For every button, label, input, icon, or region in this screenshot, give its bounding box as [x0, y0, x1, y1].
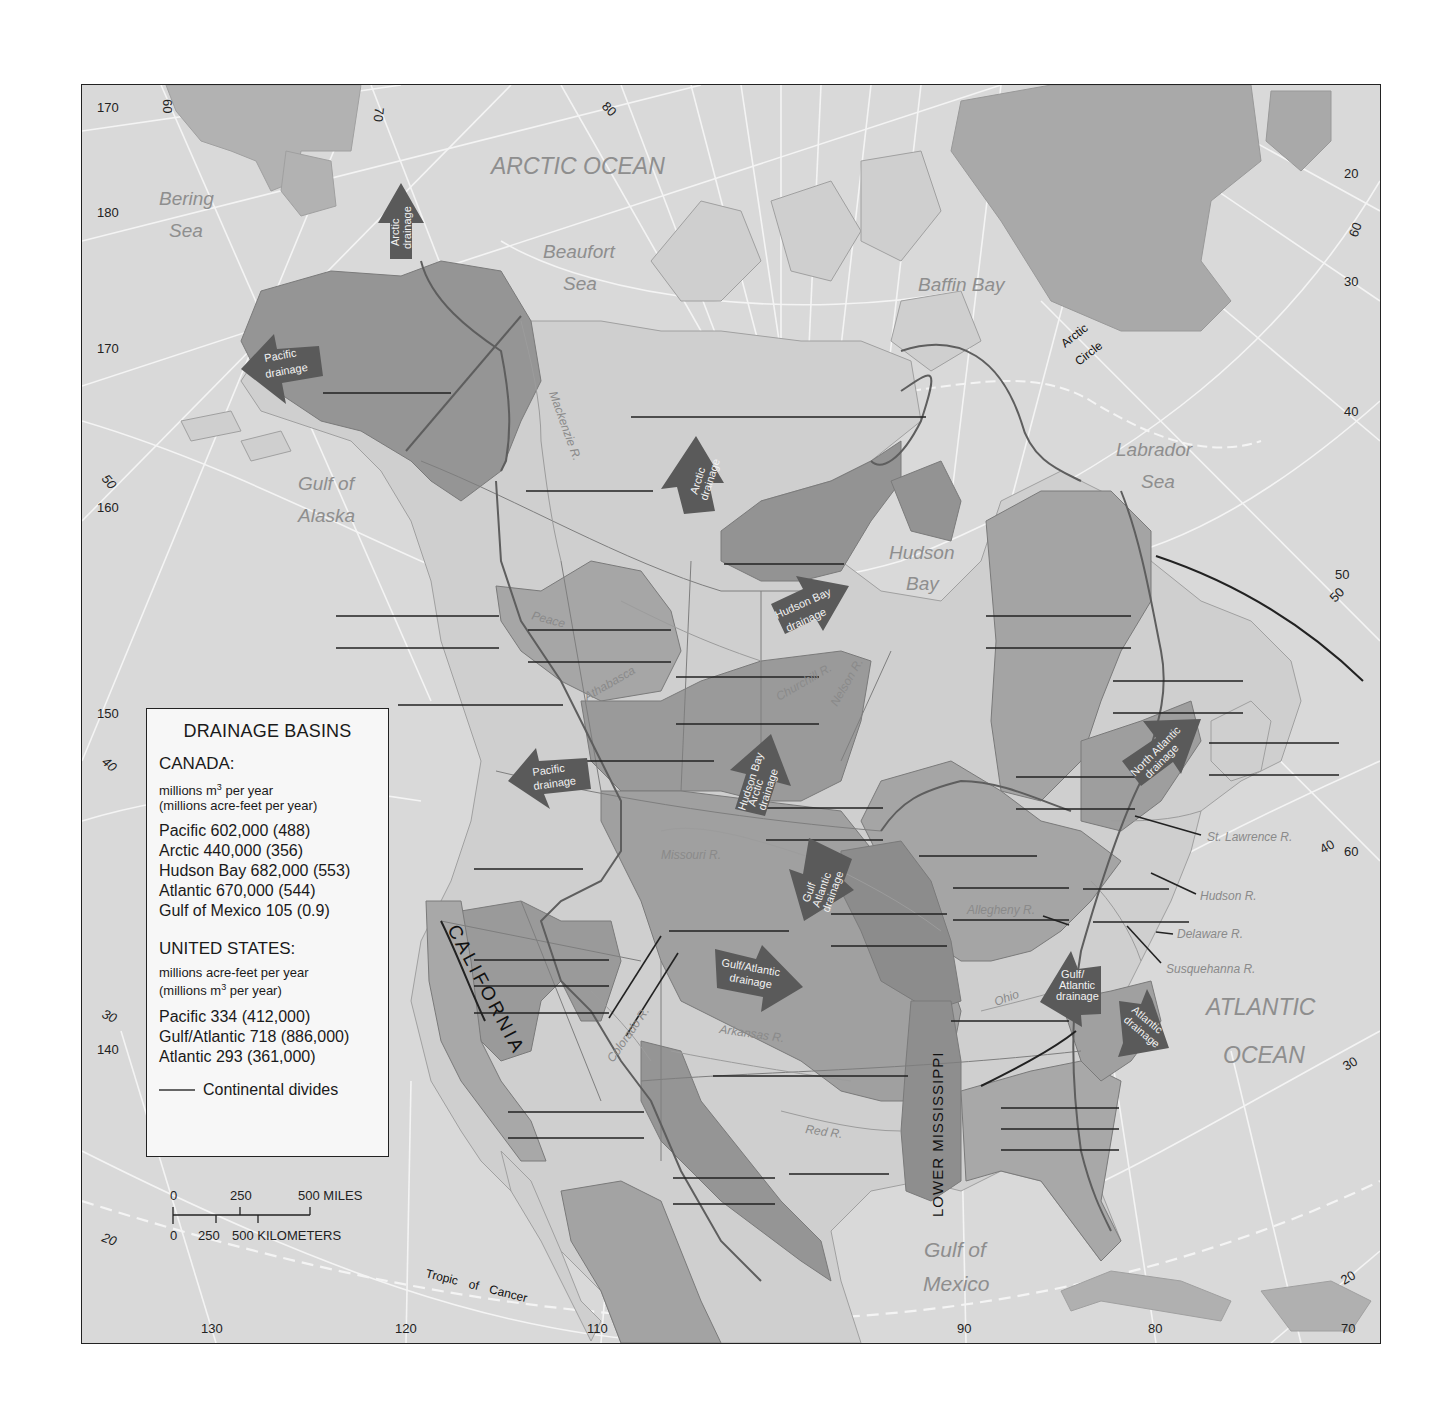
- svg-text:90: 90: [957, 1321, 971, 1336]
- svg-text:drainage: drainage: [401, 206, 413, 249]
- svg-text:170: 170: [97, 341, 119, 356]
- svg-text:180: 180: [97, 205, 119, 220]
- svg-text:140: 140: [97, 1042, 119, 1057]
- svg-text:70: 70: [1341, 1321, 1355, 1336]
- label-missouri-river: Missouri R.: [661, 848, 721, 862]
- svg-text:Bay: Bay: [906, 573, 940, 594]
- legend-us-gulf-atlantic: Gulf/Atlantic 718 (886,000): [159, 1027, 376, 1047]
- svg-text:110: 110: [587, 1321, 608, 1336]
- label-hudson-river: Hudson R.: [1200, 889, 1257, 903]
- legend-continental-divides: Continental divides: [159, 1081, 376, 1099]
- label-lower-mississippi: LOWER MISSISSIPPI: [929, 1052, 946, 1217]
- svg-text:drainage: drainage: [1056, 990, 1099, 1002]
- svg-text:30: 30: [1344, 274, 1358, 289]
- legend-box: DRAINAGE BASINS CANADA: millions m3 per …: [146, 708, 389, 1157]
- label-baffin-bay: Baffin Bay: [918, 274, 1006, 295]
- legend-us-heading: UNITED STATES:: [159, 939, 376, 959]
- label-atlantic-ocean: ATLANTIC: [1204, 994, 1316, 1020]
- svg-text:150: 150: [97, 706, 119, 721]
- scale-bar: 0 250 500 MILES 0 250 500 KILOMETERS: [170, 1188, 390, 1248]
- label-labrador-sea: Labrador: [1116, 439, 1193, 460]
- svg-text:170: 170: [97, 100, 119, 115]
- label-hudson-bay: Hudson: [889, 542, 955, 563]
- svg-text:80: 80: [1148, 1321, 1162, 1336]
- svg-text:20: 20: [1344, 166, 1358, 181]
- label-allegheny-river: Allegheny R.: [966, 903, 1035, 917]
- svg-text:Alaska: Alaska: [297, 505, 355, 526]
- scale-ruler: [172, 1206, 312, 1226]
- legend-us-units: millions acre-feet per year (millions m3…: [159, 965, 376, 998]
- label-bering-sea: Bering: [159, 188, 214, 209]
- svg-text:60: 60: [1344, 844, 1358, 859]
- svg-text:160: 160: [97, 500, 119, 515]
- svg-text:Sea: Sea: [1141, 471, 1175, 492]
- svg-text:Mexico: Mexico: [923, 1272, 990, 1295]
- label-susquehanna-river: Susquehanna R.: [1166, 962, 1255, 976]
- svg-text:60: 60: [160, 99, 175, 113]
- svg-text:40: 40: [1344, 404, 1358, 419]
- svg-text:OCEAN: OCEAN: [1223, 1042, 1305, 1068]
- legend-us-pacific: Pacific 334 (412,000): [159, 1007, 376, 1027]
- legend-canada-arctic: Arctic 440,000 (356): [159, 841, 376, 861]
- label-beaufort-sea: Beaufort: [543, 241, 616, 262]
- legend-us-atlantic: Atlantic 293 (361,000): [159, 1047, 376, 1067]
- legend-canada-units: millions m3 per year (millions acre-feet…: [159, 780, 376, 813]
- svg-text:50: 50: [1335, 567, 1349, 582]
- svg-text:Arctic: Arctic: [389, 218, 401, 246]
- svg-text:70: 70: [371, 107, 387, 123]
- label-delaware-river: Delaware R.: [1177, 927, 1243, 941]
- legend-canada-heading: CANADA:: [159, 754, 376, 774]
- label-gulf-of-alaska: Gulf of: [298, 473, 356, 494]
- svg-text:130: 130: [201, 1321, 223, 1336]
- legend-canada-gulf-of-mexico: Gulf of Mexico 105 (0.9): [159, 901, 376, 921]
- divide-line-swatch: [159, 1089, 195, 1091]
- legend-canada-atlantic: Atlantic 670,000 (544): [159, 881, 376, 901]
- svg-text:120: 120: [395, 1321, 417, 1336]
- svg-text:Sea: Sea: [563, 273, 597, 294]
- drainage-basin-map: Arctic drainage Pacific drainage Arctic …: [81, 84, 1381, 1344]
- svg-text:Sea: Sea: [169, 220, 203, 241]
- label-gulf-of-mexico: Gulf of: [924, 1238, 988, 1261]
- legend-title: DRAINAGE BASINS: [159, 721, 376, 742]
- label-arctic-ocean: ARCTIC OCEAN: [489, 153, 665, 179]
- legend-canada-hudson-bay: Hudson Bay 682,000 (553): [159, 861, 376, 881]
- legend-canada-pacific: Pacific 602,000 (488): [159, 821, 376, 841]
- label-st-lawrence-river: St. Lawrence R.: [1207, 830, 1292, 844]
